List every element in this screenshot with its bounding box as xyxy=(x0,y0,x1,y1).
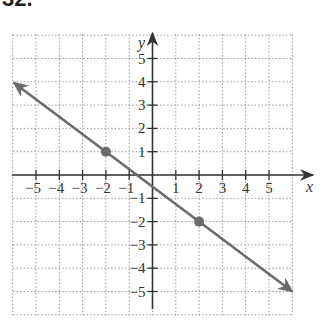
y-tick-label: 2 xyxy=(138,120,146,136)
x-tick-label: −2 xyxy=(95,180,111,196)
y-tick-label: 1 xyxy=(138,144,146,160)
y-tick-label: −2 xyxy=(130,214,146,230)
data-point xyxy=(194,217,204,227)
x-tick-label: 1 xyxy=(172,180,180,196)
y-tick-label: −5 xyxy=(130,284,146,300)
y-tick-label: −1 xyxy=(130,190,146,206)
x-axis-label: x xyxy=(305,178,313,195)
y-tick-label: 5 xyxy=(138,51,146,67)
y-tick-label: 4 xyxy=(138,74,146,90)
x-tick-label: 4 xyxy=(242,180,250,196)
y-tick-label: −4 xyxy=(130,260,146,276)
y-tick-label: −3 xyxy=(130,237,146,253)
data-point xyxy=(101,147,111,157)
y-tick-label: 3 xyxy=(138,97,146,113)
x-tick-label: −4 xyxy=(48,180,64,196)
x-tick-label: −5 xyxy=(25,180,41,196)
x-tick-label: 3 xyxy=(219,180,227,196)
coordinate-plane: −5−4−3−2−112345−5−4−3−2−112345xy xyxy=(0,0,328,333)
y-axis-label: y xyxy=(136,34,146,52)
x-tick-label: 5 xyxy=(265,180,273,196)
x-tick-label: −3 xyxy=(72,180,88,196)
x-tick-label: 2 xyxy=(195,180,203,196)
